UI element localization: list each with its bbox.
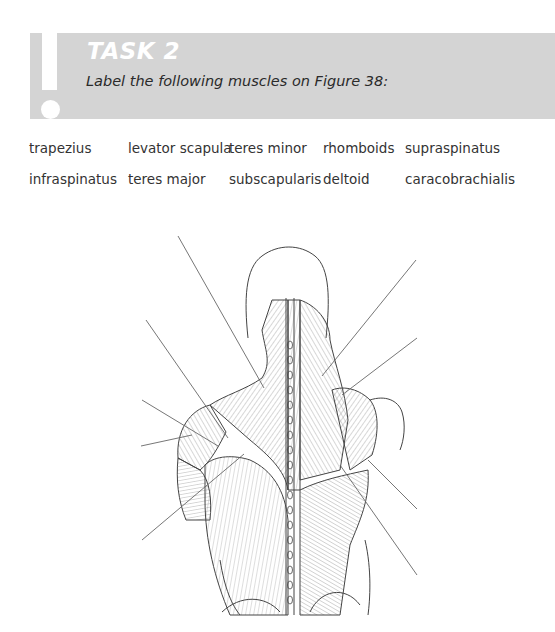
leader-line [342, 338, 417, 395]
term-item: subscapularis [229, 171, 321, 187]
leader-line [178, 236, 264, 388]
term-item: caracobrachialis [405, 171, 515, 187]
term-item: supraspinatus [405, 140, 500, 156]
leader-line [368, 460, 417, 509]
term-item: rhomboids [323, 140, 394, 156]
exclamation-icon [30, 33, 76, 119]
torso [177, 300, 404, 615]
task-title: TASK 2 [87, 38, 180, 64]
term-item: infraspinatus [29, 171, 117, 187]
term-item: teres minor [229, 140, 307, 156]
term-item: teres major [128, 171, 205, 187]
back-muscles-figure [0, 190, 555, 632]
term-item: deltoid [323, 171, 370, 187]
term-item: levator scapula [128, 140, 232, 156]
task-instruction: Label the following muscles on Figure 38… [86, 73, 388, 89]
term-item: trapezius [29, 140, 91, 156]
term-row: trapezius levator scapula teres minor rh… [29, 140, 555, 171]
leader-line [322, 260, 416, 376]
